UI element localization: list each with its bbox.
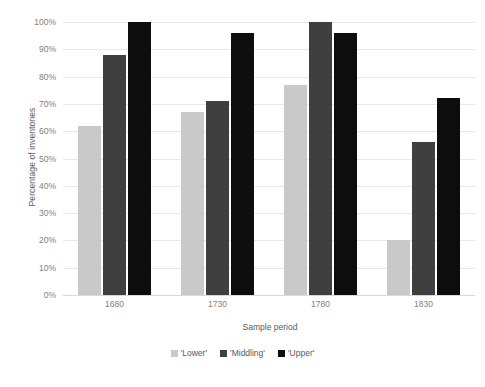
bar[interactable] [231, 33, 254, 295]
legend-item-label: 'Middling' [230, 348, 265, 358]
bar[interactable] [387, 240, 410, 295]
legend-swatch-icon [278, 350, 285, 357]
bar[interactable] [284, 85, 307, 295]
bar[interactable] [334, 33, 357, 295]
bar-group-1830 [372, 22, 475, 295]
bar[interactable] [103, 55, 126, 295]
legend-swatch-icon [220, 350, 227, 357]
y-axis-tick-label: 60% [4, 126, 60, 136]
bar[interactable] [181, 112, 204, 295]
x-axis-tick-labels: 1680173017801830 [63, 299, 475, 317]
legend-item[interactable]: 'Middling' [220, 348, 265, 358]
legend-item[interactable]: 'Upper' [278, 348, 314, 358]
chart-legend: 'Lower''Middling''Upper' [0, 348, 485, 358]
bar[interactable] [437, 98, 460, 295]
legend-item-label: 'Lower' [181, 348, 207, 358]
legend-swatch-icon [171, 350, 178, 357]
y-axis-tick-label: 50% [4, 154, 60, 164]
y-axis-tick-labels: 100%90%80%70%60%50%40%30%20%10%0% [0, 22, 60, 295]
y-axis-tick-label: 20% [4, 235, 60, 245]
bar[interactable] [78, 126, 101, 295]
y-axis-tick-label: 30% [4, 208, 60, 218]
y-axis-tick-label: 10% [4, 263, 60, 273]
y-axis-tick-label: 80% [4, 72, 60, 82]
bar[interactable] [128, 22, 151, 295]
y-axis-tick-label: 0% [4, 290, 60, 300]
legend-item-label: 'Upper' [288, 348, 314, 358]
bar[interactable] [309, 22, 332, 295]
bar-chart: Percentage of inventories 100%90%80%70%6… [0, 0, 485, 387]
bar-group-1730 [166, 22, 269, 295]
x-axis-tick-label: 1830 [414, 299, 433, 309]
y-axis-tick-label: 100% [4, 17, 60, 27]
plot-area [63, 22, 475, 295]
y-axis-tick-label: 70% [4, 99, 60, 109]
x-axis-tick-label: 1780 [311, 299, 330, 309]
bar-group-1680 [63, 22, 166, 295]
x-axis-tick-label: 1730 [208, 299, 227, 309]
legend-item[interactable]: 'Lower' [171, 348, 207, 358]
bar[interactable] [412, 142, 435, 295]
bar[interactable] [206, 101, 229, 295]
gridline [63, 295, 475, 296]
x-axis-tick-label: 1680 [105, 299, 124, 309]
x-axis-title: Sample period [60, 322, 480, 332]
y-axis-tick-label: 90% [4, 44, 60, 54]
bar-group-1780 [269, 22, 372, 295]
y-axis-tick-label: 40% [4, 181, 60, 191]
